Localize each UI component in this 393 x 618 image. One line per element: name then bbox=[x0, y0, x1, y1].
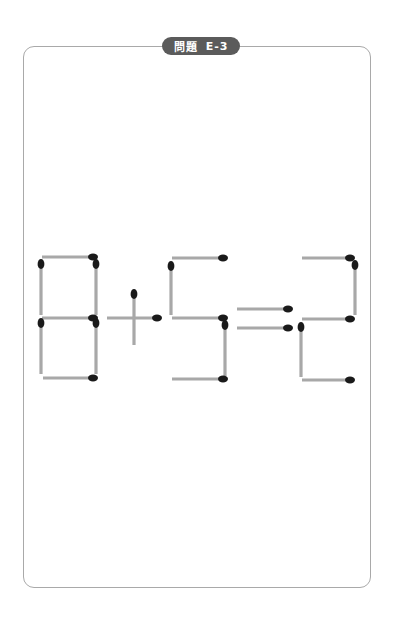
matchstick-digit-8[interactable] bbox=[38, 259, 45, 315]
matchstick-digit-8[interactable] bbox=[43, 375, 98, 382]
matchstick-head-icon bbox=[93, 259, 100, 269]
matchstick-head-icon bbox=[345, 377, 355, 384]
matchstick-head-icon bbox=[38, 259, 45, 269]
matchstick-head-icon bbox=[218, 255, 228, 262]
matchstick-digit-5[interactable] bbox=[222, 320, 229, 376]
matchstick-head-icon bbox=[168, 261, 175, 271]
matchstick-head-icon bbox=[93, 318, 100, 328]
matchstick-equals[interactable] bbox=[237, 325, 293, 332]
matchstick-digit-5[interactable] bbox=[172, 376, 228, 383]
matchstick-head-icon bbox=[88, 375, 98, 382]
matchstick-digit-8[interactable] bbox=[93, 318, 100, 374]
matchstick-head-icon bbox=[283, 325, 293, 332]
matchstick-head-icon bbox=[38, 318, 45, 328]
matchstick-head-icon bbox=[298, 322, 305, 332]
matchstick-head-icon bbox=[218, 376, 228, 383]
matchstick-digit-8[interactable] bbox=[42, 315, 98, 322]
matchstick-digit-5[interactable] bbox=[168, 261, 175, 315]
matchstick-digit-5[interactable] bbox=[172, 255, 228, 262]
matchstick-equation bbox=[0, 0, 393, 618]
matchstick-digit-2[interactable] bbox=[298, 322, 305, 377]
matchstick-digit-5[interactable] bbox=[172, 315, 228, 322]
matchstick-head-icon bbox=[345, 255, 355, 262]
matchstick-digit-2[interactable] bbox=[302, 377, 355, 384]
matchstick-equals[interactable] bbox=[237, 306, 293, 313]
matchstick-digit-8[interactable] bbox=[93, 259, 100, 315]
matchstick-head-icon bbox=[345, 316, 355, 323]
matchstick-head-icon bbox=[352, 260, 359, 270]
matchstick-head-icon bbox=[131, 289, 138, 299]
matchstick-digit-8[interactable] bbox=[42, 254, 98, 261]
matchstick-digit-2[interactable] bbox=[302, 316, 355, 323]
matchstick-head-icon bbox=[152, 315, 162, 322]
matchstick-digit-2[interactable] bbox=[302, 255, 355, 262]
matchstick-digit-2[interactable] bbox=[352, 260, 359, 315]
matchstick-head-icon bbox=[283, 306, 293, 313]
matchstick-digit-8[interactable] bbox=[38, 318, 45, 374]
matchstick-head-icon bbox=[222, 320, 229, 330]
matchstick-head-icon bbox=[218, 315, 228, 322]
